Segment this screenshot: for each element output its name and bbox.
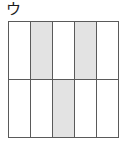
grid-cell-r0c4: [97, 22, 119, 80]
grid-cell-r0c3: [75, 22, 97, 80]
grid-cell-r1c3: [75, 80, 97, 138]
figure-label: ウ: [6, 0, 21, 18]
grid-cell-r1c4: [97, 80, 119, 138]
grid-cell-r1c1: [31, 80, 53, 138]
grid-cell-r0c1: [31, 22, 53, 80]
grid-diagram: [8, 21, 119, 138]
grid-cell-r1c0: [9, 80, 31, 138]
table-row: [9, 22, 119, 80]
grid-table: [8, 21, 119, 138]
figure-container: ウ: [0, 0, 130, 147]
grid-cell-r1c2: [53, 80, 75, 138]
grid-cell-r0c0: [9, 22, 31, 80]
grid-cell-r0c2: [53, 22, 75, 80]
grid-body: [9, 22, 119, 138]
table-row: [9, 80, 119, 138]
